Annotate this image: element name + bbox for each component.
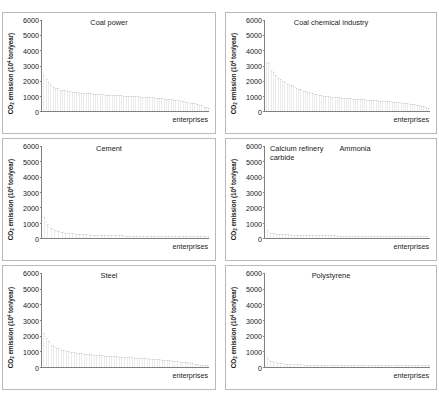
y-tick-label: 4000 <box>23 173 39 182</box>
y-tick-label: 0 <box>258 364 262 373</box>
bar <box>428 236 429 238</box>
y-tick-label: 1000 <box>246 92 262 101</box>
y-axis-tick-labels: 0100020003000400050006000 <box>16 20 40 112</box>
bar <box>208 236 209 238</box>
y-tick-mark <box>263 367 266 368</box>
plot-area <box>41 273 209 368</box>
y-tick-label: 2000 <box>246 204 262 213</box>
x-axis-title: enterprises <box>172 242 208 251</box>
plot-area <box>41 20 209 112</box>
y-tick-label: 1000 <box>246 219 262 228</box>
chart-panel-steel: CO2 emission (104 ton/year)0100020003000… <box>2 265 216 390</box>
bar <box>428 108 430 111</box>
chart-panel-polystyrene: CO2 emission (104 ton/year)0100020003000… <box>225 265 437 390</box>
chart-panel-cement: CO2 emission (104 ton/year)0100020003000… <box>2 138 216 261</box>
y-tick-label: 2000 <box>23 77 39 86</box>
y-tick-label: 0 <box>35 364 39 373</box>
y-axis-tick-labels: 0100020003000400050006000 <box>16 273 40 368</box>
bar <box>208 108 210 111</box>
series-label-secondary: Ammonia <box>339 145 370 154</box>
y-tick-label: 5000 <box>23 157 39 166</box>
y-tick-label: 2000 <box>23 204 39 213</box>
plot-area <box>264 273 430 368</box>
bar-series <box>42 146 209 238</box>
y-tick-label: 0 <box>35 108 39 117</box>
y-tick-label: 6000 <box>246 142 262 151</box>
series-label-primary: Calcium refinery carbide <box>270 145 323 162</box>
y-tick-mark <box>263 111 266 112</box>
y-tick-label: 3000 <box>246 62 262 71</box>
y-axis-tick-labels: 0100020003000400050006000 <box>16 146 40 239</box>
y-tick-label: 4000 <box>246 300 262 309</box>
y-axis-tick-labels: 0100020003000400050006000 <box>239 20 263 112</box>
y-tick-label: 3000 <box>23 316 39 325</box>
plot-area <box>41 146 209 239</box>
bar <box>428 365 429 367</box>
x-axis-title: enterprises <box>393 371 429 380</box>
y-tick-label: 5000 <box>23 284 39 293</box>
series-label: Coal power <box>3 19 215 28</box>
series-label: Cement <box>3 145 215 154</box>
plot-area <box>264 20 430 112</box>
chart-panel-calcium-refinery-carbide: CO2 emission (104 ton/year)0100020003000… <box>225 138 437 261</box>
chart-panel-coal-chemical-industry: CO2 emission (104 ton/year)0100020003000… <box>225 12 437 134</box>
bar-series <box>42 20 209 111</box>
y-tick-label: 1000 <box>246 348 262 357</box>
y-tick-label: 3000 <box>23 188 39 197</box>
y-tick-label: 4000 <box>246 173 262 182</box>
y-tick-label: 1000 <box>23 348 39 357</box>
y-tick-label: 2000 <box>246 332 262 341</box>
y-tick-label: 5000 <box>246 284 262 293</box>
bar-series <box>42 273 209 367</box>
series-label: Steel <box>3 272 215 281</box>
y-tick-label: 1000 <box>23 219 39 228</box>
y-tick-mark <box>263 238 266 239</box>
y-tick-label: 2000 <box>246 77 262 86</box>
figure-panel-grid: CO2 emission (104 ton/year)0100020003000… <box>0 0 439 393</box>
chart-panel-coal-power: CO2 emission (104 ton/year)0100020003000… <box>2 12 216 134</box>
y-tick-mark <box>40 111 43 112</box>
bar-series <box>265 273 430 367</box>
y-tick-label: 5000 <box>23 31 39 40</box>
y-tick-label: 3000 <box>246 188 262 197</box>
y-tick-label: 5000 <box>246 157 262 166</box>
y-tick-mark <box>40 367 43 368</box>
y-tick-label: 0 <box>258 235 262 244</box>
y-tick-label: 2000 <box>23 332 39 341</box>
x-axis-title: enterprises <box>172 115 208 124</box>
y-axis-tick-labels: 0100020003000400050006000 <box>239 146 263 239</box>
y-axis-tick-labels: 0100020003000400050006000 <box>239 273 263 368</box>
bar-series <box>265 20 430 111</box>
y-tick-label: 4000 <box>23 46 39 55</box>
y-tick-label: 0 <box>258 108 262 117</box>
series-label: Coal chemical industry <box>226 19 436 28</box>
x-axis-title: enterprises <box>393 115 429 124</box>
bar <box>207 365 209 367</box>
x-axis-title: enterprises <box>172 371 208 380</box>
y-tick-label: 3000 <box>23 62 39 71</box>
y-tick-mark <box>40 238 43 239</box>
y-tick-label: 4000 <box>246 46 262 55</box>
y-tick-label: 1000 <box>23 92 39 101</box>
y-tick-label: 4000 <box>23 300 39 309</box>
x-axis-title: enterprises <box>393 242 429 251</box>
y-tick-label: 0 <box>35 235 39 244</box>
series-label: Polystyrene <box>226 272 436 281</box>
y-tick-label: 5000 <box>246 31 262 40</box>
y-tick-label: 3000 <box>246 316 262 325</box>
